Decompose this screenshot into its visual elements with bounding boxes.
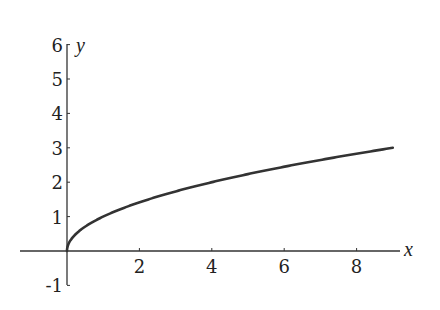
x-tick-label: 8 — [351, 256, 362, 277]
x-axis-label: x — [403, 238, 413, 260]
y-tick-label: 4 — [52, 103, 63, 124]
plot-area: 2468 -1123456 x y — [0, 0, 440, 310]
x-tick-label: 4 — [206, 256, 217, 277]
y-tick-label: 3 — [52, 138, 63, 159]
y-tick-label: 1 — [52, 207, 63, 228]
x-tick-label: 2 — [134, 256, 145, 277]
y-axis-label: y — [74, 34, 85, 57]
y-tick-label: -1 — [45, 275, 63, 296]
x-tick-label: 6 — [278, 256, 289, 277]
y-tick-label: 5 — [52, 69, 63, 90]
y-tick-label: 2 — [52, 172, 63, 193]
y-ticks: -1123456 — [45, 35, 70, 297]
y-tick-label: 6 — [52, 35, 63, 56]
sqrt-curve — [67, 148, 393, 251]
x-ticks: 2468 — [134, 248, 363, 277]
